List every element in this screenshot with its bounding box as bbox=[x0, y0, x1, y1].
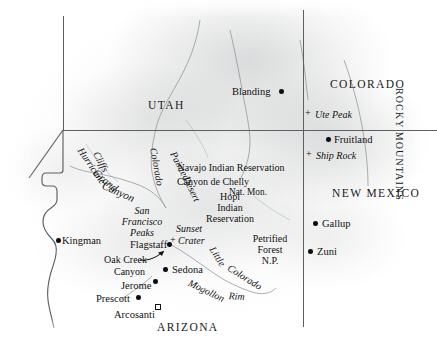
region-label-san-francisco-peaks: San Francisco Peaks bbox=[122, 206, 163, 238]
city-label-arcosanti: Arcosanti bbox=[114, 310, 155, 321]
peak-label-ute-peak: Ute Peak bbox=[315, 110, 352, 120]
terrain-corner-fade bbox=[262, 244, 437, 339]
region-line-forest: Forest bbox=[253, 245, 287, 255]
region-line-reservation: Reservation bbox=[206, 214, 254, 224]
peak-label-crater: Crater bbox=[178, 236, 205, 246]
city-label-fruitland: Fruitland bbox=[334, 135, 373, 146]
region-line-peaks: Peaks bbox=[122, 228, 163, 238]
peak-marker-sunset-crater: + bbox=[170, 235, 176, 245]
city-label-kingman: Kingman bbox=[62, 236, 101, 247]
city-label-zuni: Zuni bbox=[317, 247, 337, 258]
region-label-hopi-indian-reservation: Hopi Indian Reservation bbox=[206, 192, 254, 224]
region-line-np: N.P. bbox=[253, 256, 287, 266]
region-line-hopi: Hopi bbox=[206, 192, 254, 202]
peak-marker-ute-peak: + bbox=[305, 108, 311, 118]
feature-label-little-colorado: Colorado bbox=[226, 263, 264, 292]
region-label-petrified-forest-np: Petrified Forest N.P. bbox=[253, 234, 287, 266]
feature-label-little: Little bbox=[208, 245, 228, 268]
city-marker-kingman bbox=[56, 238, 61, 243]
city-marker-jerome bbox=[153, 279, 158, 284]
feature-label-rim: Rim bbox=[228, 291, 245, 302]
city-label-prescott: Prescott bbox=[96, 294, 130, 305]
city-label-blanding: Blanding bbox=[232, 87, 271, 98]
city-marker-prescott bbox=[136, 295, 141, 300]
city-marker-fruitland bbox=[326, 137, 331, 142]
city-marker-gallup bbox=[313, 221, 318, 226]
range-label-rocky-mountains: ROCKY MOUNTAINS bbox=[394, 88, 404, 201]
state-label-new-mexico: NEW MEXICO bbox=[332, 188, 420, 200]
city-marker-blanding bbox=[279, 89, 284, 94]
region-line-francisco: Francisco bbox=[122, 217, 163, 227]
city-marker-sedona bbox=[163, 267, 168, 272]
border-nevada-utah-vertical bbox=[63, 16, 64, 130]
feature-label-colorado-river: Colorado bbox=[148, 147, 165, 186]
city-label-jerome: Jerome bbox=[121, 281, 151, 292]
feature-label-oak-creek-canyon: Canyon bbox=[114, 267, 145, 277]
border-utah-colorado-vertical bbox=[303, 10, 304, 130]
state-label-arizona: ARIZONA bbox=[157, 322, 219, 334]
city-label-sedona: Sedona bbox=[172, 265, 203, 276]
peak-label-sunset: Sunset bbox=[176, 224, 202, 234]
region-label-navajo-indian-reservation: Navajo Indian Reservation bbox=[177, 163, 284, 173]
relief-map: UTAH COLORADO NEW MEXICO ARIZONA ROCKY M… bbox=[0, 0, 437, 339]
region-line-indian: Indian bbox=[206, 203, 254, 213]
region-line-san: San bbox=[122, 206, 163, 216]
border-arizona-utah-horizontal bbox=[63, 130, 437, 131]
city-marker-zuni bbox=[308, 249, 313, 254]
region-label-canyon-de-chelly: Canyon de Chelly bbox=[177, 177, 249, 187]
state-label-utah: UTAH bbox=[148, 100, 185, 112]
peak-label-ship-rock: Ship Rock bbox=[316, 151, 356, 161]
region-line-petrified: Petrified bbox=[253, 234, 287, 244]
peak-marker-ship-rock: + bbox=[306, 149, 312, 159]
city-label-gallup: Gallup bbox=[322, 219, 351, 230]
city-marker-arcosanti bbox=[155, 304, 161, 310]
feature-label-mogollon: Mogollon bbox=[187, 278, 226, 304]
oak-creek-pointer-arrow bbox=[138, 246, 178, 266]
border-arizona-newmexico-vertical bbox=[303, 130, 304, 327]
